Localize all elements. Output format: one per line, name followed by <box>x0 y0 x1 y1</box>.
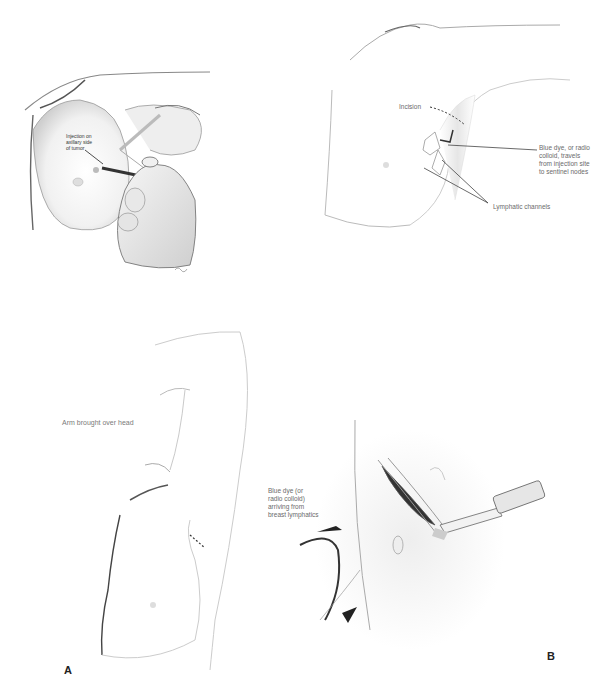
injection-illustration: Injection on axillary side of tumor <box>0 0 300 290</box>
blue-dye-label: Blue dye, or radio colloid, travels from… <box>539 144 590 176</box>
injection-drawing-icon <box>0 0 300 290</box>
arriving-dye-label: Blue dye (or radio colloid) arriving fro… <box>268 487 319 519</box>
panel-letter-b: B <box>547 650 555 662</box>
arm-position-illustration: Arm brought over head A <box>0 320 250 696</box>
lymphatic-illustration: Incision Blue dye, or radio colloid, tra… <box>290 0 597 250</box>
lymphatic-drawing-icon <box>290 0 597 250</box>
lymphatic-channels-label: Lymphatic channels <box>493 203 550 211</box>
injection-label: Injection on axillary side of tumor <box>66 133 92 151</box>
sentinel-node-illustration: Blue dye (or radio colloid) arriving fro… <box>260 400 597 696</box>
panel-letter-a: A <box>64 664 72 676</box>
arm-over-head-label: Arm brought over head <box>62 419 134 428</box>
incision-label: Incision <box>399 103 421 111</box>
arm-drawing-icon <box>0 320 250 696</box>
